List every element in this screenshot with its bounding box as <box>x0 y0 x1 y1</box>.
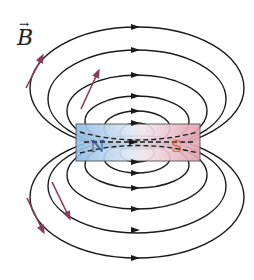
arrow-right-icon <box>131 93 140 99</box>
arrow-right-icon <box>131 170 140 176</box>
field-vector-arrow <box>27 198 43 231</box>
north-pole-label: N <box>90 136 105 156</box>
arrow-right-icon <box>131 185 140 191</box>
bar-magnet-diagram: N S <box>0 0 254 280</box>
arrow-right-icon <box>131 227 140 233</box>
arrow-right-icon <box>131 24 140 30</box>
bar-magnet: N S <box>76 124 200 161</box>
arrow-right-icon <box>131 206 140 212</box>
field-vector-arrow <box>26 57 42 88</box>
field-label-b: → B <box>17 27 33 49</box>
field-vector-arrow <box>81 72 98 109</box>
vector-arrow-icon: → <box>19 18 29 30</box>
south-pole-label: S <box>171 136 183 156</box>
arrow-right-icon <box>131 47 140 53</box>
arrow-right-icon <box>131 255 140 261</box>
arrow-right-icon <box>131 72 140 78</box>
field-vector-arrow <box>52 182 69 217</box>
arrow-right-icon <box>131 108 140 114</box>
